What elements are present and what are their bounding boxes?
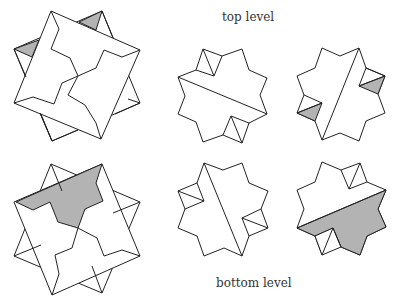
- diagram-canvas: [0, 0, 393, 305]
- bottom-piece-a-figure: [178, 163, 268, 256]
- star-outline: [297, 48, 385, 141]
- front-square: [14, 11, 140, 139]
- bottom-overlay-figure: [14, 164, 140, 295]
- bottom-piece-b-figure: [297, 162, 386, 255]
- top-overlay-figure: [14, 11, 140, 141]
- top-piece-b-figure: [297, 48, 385, 141]
- top-piece-a-figure: [178, 49, 267, 143]
